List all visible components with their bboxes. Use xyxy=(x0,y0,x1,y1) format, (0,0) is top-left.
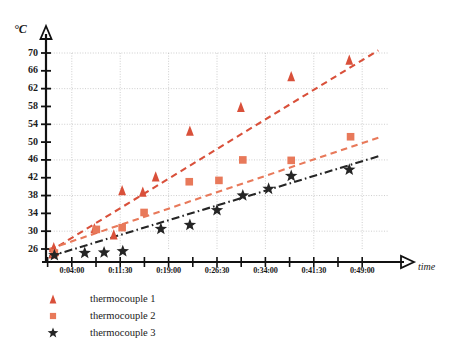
y-axis-tick-label: 42 xyxy=(16,171,38,182)
y-axis-tick-label: 70 xyxy=(16,47,38,58)
data-point xyxy=(93,226,101,234)
x-axis-tick-label: 0:34:00 xyxy=(239,266,291,275)
chart-legend: thermocouple 1thermocouple 2thermocouple… xyxy=(36,290,156,341)
star-icon xyxy=(36,326,70,340)
x-axis-tick-label: 0:41:30 xyxy=(288,266,340,275)
y-axis-tick-label: 62 xyxy=(16,82,38,93)
y-axis-tick-label: 34 xyxy=(16,207,38,218)
data-point xyxy=(215,177,223,185)
y-axis-tick-label: 38 xyxy=(16,189,38,200)
x-axis-tick-label: 0:49:00 xyxy=(336,266,388,275)
data-point xyxy=(287,157,295,165)
triangle-icon xyxy=(50,294,57,303)
star-icon xyxy=(48,327,59,337)
data-point xyxy=(118,185,126,195)
y-axis-tick-label: 30 xyxy=(16,225,38,236)
y-axis-tick-label: 50 xyxy=(16,136,38,147)
data-point xyxy=(285,169,297,181)
data-point xyxy=(287,71,295,81)
triangle-icon xyxy=(36,292,70,306)
data-point xyxy=(152,171,160,181)
data-point xyxy=(140,209,148,217)
legend-item[interactable]: thermocouple 2 xyxy=(36,307,156,324)
data-point xyxy=(118,224,126,232)
data-point xyxy=(98,246,110,258)
x-axis-tick-label: 0:04:00 xyxy=(46,266,98,275)
y-axis-tick-label: 58 xyxy=(16,100,38,111)
data-point xyxy=(343,163,355,175)
data-point xyxy=(184,218,196,230)
y-axis-tick-label: 66 xyxy=(16,64,38,75)
x-axis-tick-label: 0:11:30 xyxy=(94,266,146,275)
legend-label: thermocouple 1 xyxy=(90,293,156,304)
data-point xyxy=(78,246,90,258)
square-icon xyxy=(36,309,70,323)
data-point xyxy=(347,133,355,141)
y-axis-tick-label: 46 xyxy=(16,153,38,164)
data-point xyxy=(211,204,223,216)
x-axis-tick-label: 0:26:30 xyxy=(191,266,243,275)
trendline-1 xyxy=(49,50,378,251)
data-point xyxy=(185,178,193,186)
square-icon xyxy=(50,312,56,318)
series-1 xyxy=(49,50,378,251)
data-point xyxy=(239,156,247,164)
gridlines xyxy=(46,53,388,249)
figure-caption xyxy=(4,354,456,363)
series-2-markers xyxy=(51,133,355,257)
chart-figure: °C time 263034384246505458626670 0:04:00… xyxy=(0,0,460,363)
legend-item[interactable]: thermocouple 1 xyxy=(36,290,156,307)
legend-item[interactable]: thermocouple 3 xyxy=(36,324,156,341)
legend-label: thermocouple 3 xyxy=(90,327,156,338)
data-point xyxy=(110,229,118,239)
y-axis-tick-label: 54 xyxy=(16,118,38,129)
series-3 xyxy=(49,156,378,256)
x-axis-tick-label: 0:19:00 xyxy=(143,266,195,275)
data-point xyxy=(262,182,274,194)
trendline-3 xyxy=(49,156,378,256)
data-point xyxy=(186,125,194,135)
legend-label: thermocouple 2 xyxy=(90,310,156,321)
data-point xyxy=(117,245,129,257)
series-3-markers xyxy=(48,163,355,260)
data-point xyxy=(237,102,245,112)
y-axis-tick-label: 26 xyxy=(16,243,38,254)
data-point xyxy=(345,55,353,65)
